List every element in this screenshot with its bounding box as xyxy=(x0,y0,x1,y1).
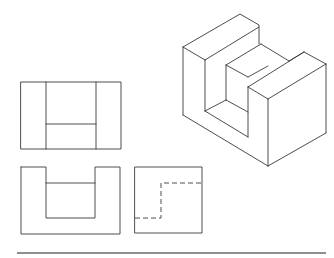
front-view xyxy=(21,167,120,234)
side-view xyxy=(135,167,202,233)
isometric-view xyxy=(183,14,326,166)
drawing-canvas xyxy=(0,0,334,258)
top-view xyxy=(21,82,121,149)
hidden-line xyxy=(135,183,202,218)
